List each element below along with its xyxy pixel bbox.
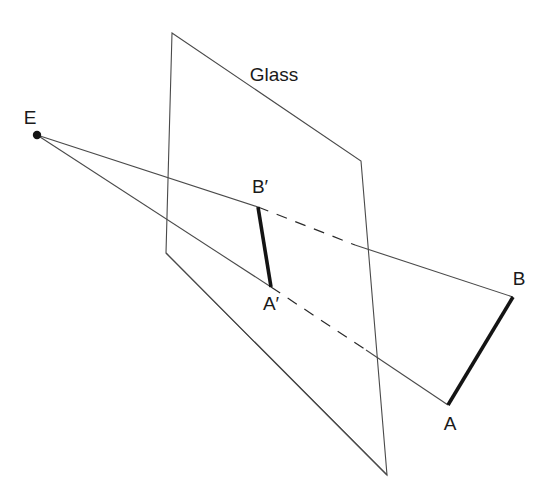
projection-ray-e-to-b-prime [37,135,258,207]
object-segment-ab [448,297,513,405]
label-image-top-b-prime: B′ [252,176,269,197]
perspective-projection-diagram: E Glass B′ A′ B A [0,0,544,500]
label-eye-point: E [24,107,37,128]
projection-ray-b-prime-to-glass-edge [258,207,355,245]
eye-point-dot [33,131,41,139]
image-segment-a-prime-b-prime [258,207,271,287]
label-glass-plane: Glass [250,64,299,85]
label-image-bottom-a-prime: A′ [263,293,280,314]
projection-ray-glass-edge-to-a [366,350,448,405]
label-object-top-b: B [513,268,526,289]
diagram-canvas: E Glass B′ A′ B A [0,0,544,500]
glass-plane-outline [166,33,387,475]
projection-ray-a-prime-to-glass-edge [271,287,366,350]
object-plane-left-edge [166,253,387,475]
label-object-bottom-a: A [444,413,457,434]
projection-ray-glass-edge-to-b [355,245,513,297]
projection-ray-e-to-a-prime [37,135,271,287]
